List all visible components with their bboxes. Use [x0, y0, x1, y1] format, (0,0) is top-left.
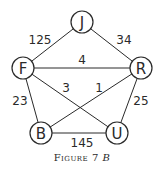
edge-weight-label: 23 — [12, 94, 27, 108]
node-label: U — [112, 125, 123, 143]
node-label: J — [79, 14, 84, 32]
caption-prefix: Figure 7 — [54, 152, 99, 163]
nodes: JFRBU — [12, 11, 152, 144]
graph-diagram: 125344312325145 JFRBU — [0, 0, 164, 172]
node-u: U — [106, 122, 128, 144]
node-f: F — [12, 57, 34, 79]
edge-weight-label: 4 — [78, 53, 86, 67]
node-b: B — [30, 122, 52, 144]
node-j: J — [71, 11, 93, 33]
node-label: F — [19, 60, 28, 78]
edge-weight-label: 1 — [95, 81, 103, 95]
edge-r-b — [41, 68, 141, 133]
edge-weight-label: 145 — [71, 136, 94, 150]
node-r: R — [130, 57, 152, 79]
edge-weight-label: 3 — [62, 81, 70, 95]
node-label: R — [136, 60, 146, 78]
caption-suffix: B — [102, 152, 110, 163]
figure-caption: Figure 7 B — [0, 152, 164, 163]
edge-weight-label: 125 — [29, 33, 52, 47]
edge-weight-label: 25 — [133, 94, 148, 108]
node-label: B — [36, 125, 46, 143]
edge-weight-label: 34 — [116, 33, 131, 47]
